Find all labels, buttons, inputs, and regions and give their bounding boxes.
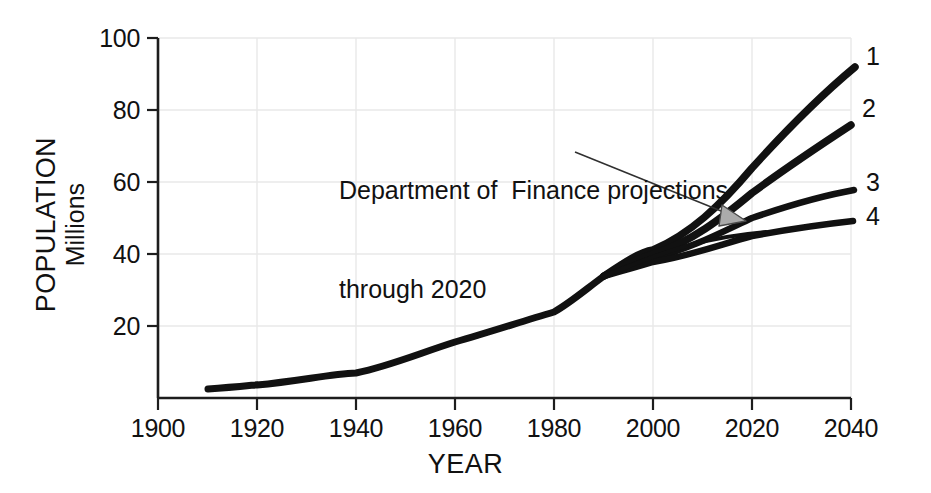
annotation-text-line-2: through 2020 <box>339 273 728 306</box>
y-axis-title: POPULATION Millions <box>32 95 89 355</box>
series-label-2: 2 <box>862 96 876 121</box>
annotation-text-line-1: Department of Finance projections <box>339 174 728 207</box>
annotation-text: Department of Finance projections throug… <box>339 108 728 372</box>
y-axis-title-units: Millions <box>62 95 90 355</box>
y-tick-label-100: 100 <box>58 26 140 51</box>
y-axis-ticks <box>147 38 158 326</box>
series-label-1: 1 <box>866 44 880 69</box>
y-axis-title-main: POPULATION <box>32 95 62 355</box>
series-label-3: 3 <box>866 170 880 195</box>
x-tick-label-2040: 2040 <box>791 416 911 441</box>
series-label-4: 4 <box>866 204 880 229</box>
x-axis-title: YEAR <box>0 449 931 480</box>
x-axis-ticks <box>158 398 851 410</box>
chart-figure: 100 80 60 40 20 1900 1920 1940 1960 1980… <box>0 0 931 493</box>
